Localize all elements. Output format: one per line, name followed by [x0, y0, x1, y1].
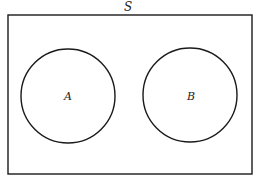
- set-b-label: B: [186, 90, 195, 103]
- universe-label: S: [124, 0, 132, 14]
- universe-rectangle: [8, 15, 252, 174]
- venn-diagram: S A B: [0, 0, 254, 179]
- set-a-label: A: [63, 90, 72, 103]
